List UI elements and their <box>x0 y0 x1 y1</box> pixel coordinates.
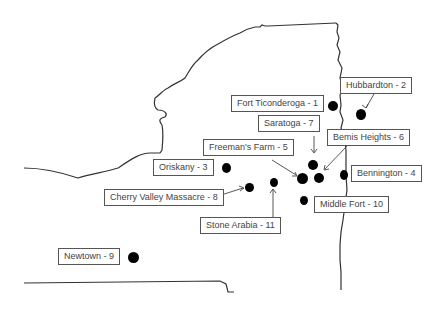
label-freemans-farm: Freeman's Farm - 5 <box>203 139 294 156</box>
label-cherry-valley: Cherry Valley Massacre - 8 <box>104 189 224 206</box>
label-saratoga: Saratoga - 7 <box>258 115 320 132</box>
label-middle-fort: Middle Fort - 10 <box>314 196 389 213</box>
marker-bemis-heights[interactable] <box>314 173 324 183</box>
label-stone-arabia: Stone Arabia - 11 <box>200 217 281 234</box>
marker-saratoga[interactable] <box>308 160 318 170</box>
marker-freemans-farm[interactable] <box>297 173 308 184</box>
marker-oriskany[interactable] <box>222 163 231 173</box>
marker-newtown[interactable] <box>128 252 139 263</box>
label-hubbardton: Hubbardton - 2 <box>340 77 412 94</box>
label-oriskany: Oriskany - 3 <box>153 159 214 176</box>
marker-bennington[interactable] <box>340 170 348 180</box>
marker-hubbardton[interactable] <box>356 109 366 120</box>
marker-middle-fort[interactable] <box>300 196 308 205</box>
label-newtown: Newtown - 9 <box>58 248 120 265</box>
arrowhead-hubbardton <box>362 104 368 108</box>
state-border-east <box>336 23 347 290</box>
label-bemis-heights: Bemis Heights - 6 <box>327 129 410 146</box>
marker-cherry-valley[interactable] <box>245 183 254 192</box>
arrow-bemis-heights <box>325 146 347 169</box>
marker-fort-ticonderoga[interactable] <box>328 101 338 111</box>
label-bennington: Bennington - 4 <box>351 165 422 182</box>
label-fort-ticonderoga: Fort Ticonderoga - 1 <box>231 95 324 112</box>
state-border-south <box>24 281 234 292</box>
arrow-freemans-farm <box>272 160 296 175</box>
marker-stone-arabia[interactable] <box>270 178 278 187</box>
